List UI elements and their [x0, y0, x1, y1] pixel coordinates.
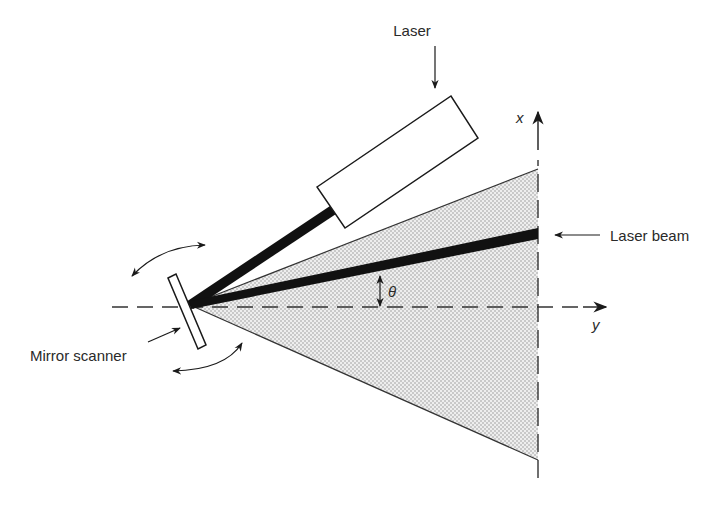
rotation-arrow-upper: [132, 245, 205, 276]
x-axis-label: x: [515, 109, 524, 126]
theta-label: θ: [388, 283, 396, 300]
laser-beam-label: Laser beam: [610, 227, 689, 244]
rotation-arrow-lower: [173, 343, 242, 371]
y-axis-label: y: [591, 316, 601, 333]
mirror-scanner-pointer-arrow: [148, 328, 180, 342]
mirror-scanner-label: Mirror scanner: [30, 347, 127, 364]
laser-label: Laser: [393, 22, 431, 39]
mirror-scanner: [168, 274, 206, 349]
laser-scanner-diagram: y x θ Laser Laser beam Mirror scanner: [0, 0, 722, 508]
